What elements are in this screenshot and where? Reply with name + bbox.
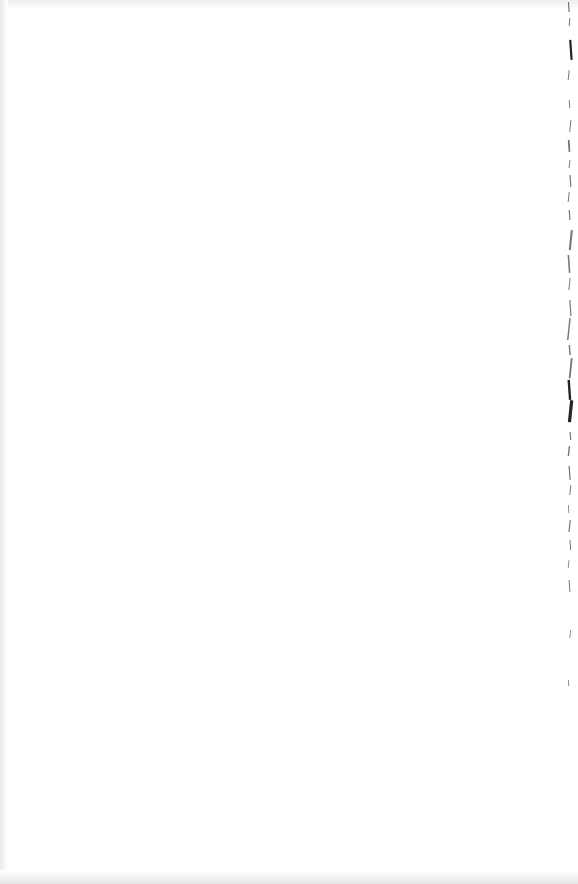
page-body-text <box>0 0 1 1</box>
scanned-page <box>0 0 578 884</box>
page-bottom-edge-shadow <box>0 870 578 884</box>
page-top-edge-shadow <box>0 0 578 10</box>
binding-edge-marks <box>560 0 578 884</box>
page-left-edge-shadow <box>0 0 8 884</box>
